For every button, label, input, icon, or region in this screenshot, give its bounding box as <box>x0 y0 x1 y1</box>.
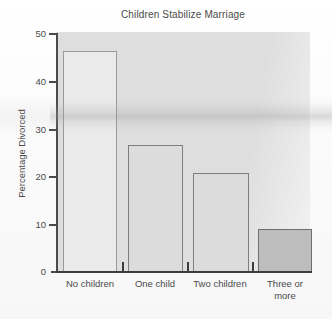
bar-no-children <box>63 51 117 272</box>
y-tick-label-50: 50 <box>16 29 46 38</box>
y-tick-20 <box>49 176 57 178</box>
x-tick-2 <box>187 262 189 272</box>
y-tick-40 <box>49 81 57 83</box>
y-tick-label-40: 40 <box>16 77 46 86</box>
x-label-two-children-line1: Two children <box>186 278 254 290</box>
x-axis-line <box>56 271 312 273</box>
bar-one-child <box>128 145 183 272</box>
x-tick-3 <box>252 262 254 272</box>
y-tick-label-0: 0 <box>16 267 46 276</box>
x-label-one-child: One child <box>123 278 187 290</box>
bar-three-or-more <box>258 229 312 272</box>
y-tick-30 <box>49 129 57 131</box>
bar-two-children <box>193 173 249 272</box>
x-label-no-children-line1: No children <box>56 278 124 290</box>
x-tick-1 <box>122 262 124 272</box>
y-tick-10 <box>49 224 57 226</box>
x-label-one-child-line1: One child <box>123 278 187 290</box>
x-label-two-children: Two children <box>186 278 254 290</box>
chart-title: Children Stabilize Marriage <box>56 9 310 20</box>
y-tick-50 <box>49 33 57 35</box>
x-label-three-or-more-line2: more <box>252 290 318 302</box>
y-axis-title: Percentage Divorced <box>16 89 27 219</box>
y-tick-label-10: 10 <box>16 220 46 229</box>
x-label-three-or-more: Three or more <box>252 278 318 302</box>
x-label-three-or-more-line1: Three or <box>252 278 318 290</box>
chart-page: Children Stabilize Marriage 50 40 30 20 … <box>0 0 332 319</box>
x-label-no-children: No children <box>56 278 124 290</box>
y-axis-line <box>56 33 58 273</box>
